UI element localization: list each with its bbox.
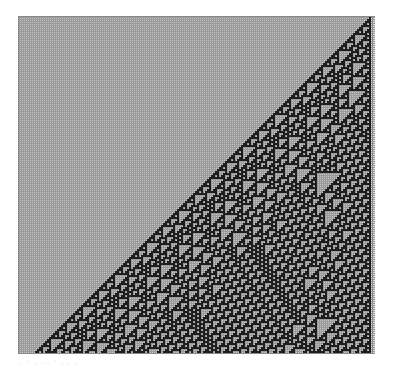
rule-110-evolution-canvas bbox=[19, 17, 375, 353]
faint-caption: · ˙ · · · ˙ · · · bbox=[20, 360, 77, 368]
cellular-automaton-figure bbox=[18, 16, 375, 354]
